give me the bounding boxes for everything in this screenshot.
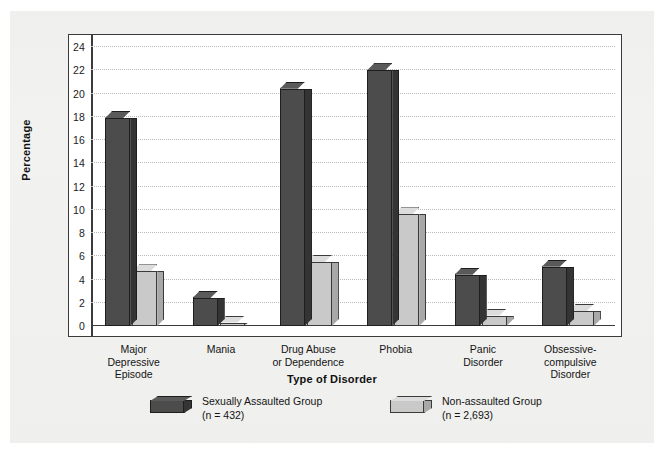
plot-frame: 242220181614121086420: [68, 34, 622, 337]
gridline: 4: [91, 279, 615, 280]
y-tick-label: 14: [73, 157, 85, 169]
y-tick-label: 2: [79, 297, 85, 309]
legend-swatch-face: [150, 400, 184, 413]
category-label: Obsessive- compulsive Disorder: [527, 343, 614, 381]
bar-face: [105, 118, 130, 326]
bar-top: [280, 82, 305, 89]
legend-label: Sexually Assaulted Group(n = 432): [202, 392, 322, 422]
y-tick-label: 8: [79, 227, 85, 239]
bar-side: [594, 311, 601, 326]
legend-swatch: [390, 396, 432, 413]
bar-side: [305, 89, 312, 326]
y-axis-title: Percentage: [20, 119, 32, 180]
bar-face: [455, 275, 480, 326]
bar-face: [220, 323, 245, 326]
bar-assaulted: [542, 267, 567, 326]
legend-series-n: (n = 2,693): [442, 409, 542, 423]
gridline: 18: [91, 116, 615, 117]
bar-nonassaulted: [220, 323, 245, 326]
bar-side: [130, 118, 137, 326]
bar-side: [419, 214, 426, 326]
gridline: 8: [91, 232, 615, 233]
gridline: 22: [91, 69, 615, 70]
y-tick-label: 4: [79, 274, 85, 286]
y-tick-label: 24: [73, 41, 85, 53]
bar-face: [367, 70, 392, 326]
category-label: Drug Abuse or Dependence: [265, 343, 352, 368]
legend-swatch-side: [424, 400, 432, 413]
legend-swatch: [150, 396, 192, 413]
y-tick-label: 22: [73, 64, 85, 76]
x-axis-baseline: 0: [91, 325, 615, 326]
y-tick-label: 18: [73, 111, 85, 123]
y-tick-label: 20: [73, 88, 85, 100]
grid-area: 242220181614121086420: [91, 47, 615, 326]
bar-face: [542, 267, 567, 326]
category-label: Panic Disorder: [439, 343, 526, 368]
bar-top: [455, 268, 480, 275]
bar-assaulted: [280, 89, 305, 326]
category-label: Major Depressive Episode: [90, 343, 177, 381]
gridline: 10: [91, 209, 615, 210]
gridline: 16: [91, 139, 615, 140]
legend-series-n: (n = 432): [202, 409, 322, 423]
y-tick-label: 0: [79, 320, 85, 332]
bar-assaulted: [455, 275, 480, 326]
category-label: Phobia: [352, 343, 439, 356]
legend-entry: Non-assaulted Group(n = 2,693): [390, 392, 542, 422]
bar-face: [280, 89, 305, 326]
y-tick-label: 16: [73, 134, 85, 146]
bar-side: [157, 271, 164, 326]
legend-series-name: Sexually Assaulted Group: [202, 395, 322, 407]
chart-legend: Sexually Assaulted Group(n = 432)Non-ass…: [0, 392, 664, 432]
gridline: 24: [91, 46, 615, 47]
bar-side: [567, 267, 574, 326]
y-tick-label: 10: [73, 204, 85, 216]
bar-face: [193, 298, 218, 326]
bar-top: [193, 291, 218, 298]
legend-entry: Sexually Assaulted Group(n = 432): [150, 392, 322, 422]
y-tick-label: 12: [73, 181, 85, 193]
bar-top: [105, 111, 130, 118]
legend-series-name: Non-assaulted Group: [442, 395, 542, 407]
bar-top: [542, 260, 567, 267]
gridline: 2: [91, 302, 615, 303]
gridline: 12: [91, 186, 615, 187]
legend-swatch-face: [390, 400, 424, 413]
gridline: 6: [91, 255, 615, 256]
figure-container: 242220181614121086420 Percentage Type of…: [0, 0, 664, 455]
gridline: 20: [91, 93, 615, 94]
bar-side: [480, 275, 487, 326]
bar-side: [392, 70, 399, 326]
y-tick-label: 6: [79, 250, 85, 262]
plot-inner: 242220181614121086420: [69, 35, 621, 336]
legend-swatch-side: [184, 400, 192, 413]
gridline: 14: [91, 162, 615, 163]
bar-assaulted: [367, 70, 392, 326]
legend-label: Non-assaulted Group(n = 2,693): [442, 392, 542, 422]
bar-side: [332, 262, 339, 326]
category-label: Mania: [177, 343, 264, 356]
bar-assaulted: [193, 298, 218, 326]
bar-assaulted: [105, 118, 130, 326]
